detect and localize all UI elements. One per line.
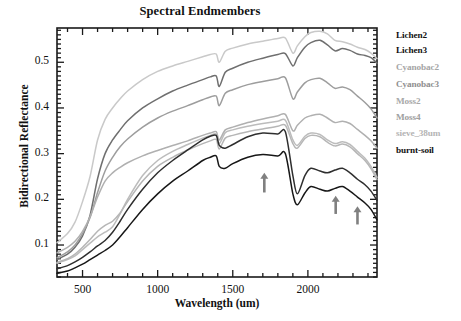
arrow-2180nm xyxy=(332,196,340,214)
arrow-head xyxy=(260,173,268,179)
legend-item-lichen2: Lichen2 xyxy=(396,30,427,40)
legend-item-lichen3: Lichen3 xyxy=(396,45,427,55)
legend-item-cyanobac3: Cyanobac3 xyxy=(396,79,439,89)
series-line-cyanobac2 xyxy=(57,77,377,258)
legend-item-burnt-soil: burnt-soil xyxy=(396,145,434,155)
arrow-2320nm xyxy=(353,206,361,224)
series-line-lichen3 xyxy=(57,40,377,259)
arrow-head xyxy=(353,206,361,212)
legend-item-moss4: Moss4 xyxy=(396,112,421,122)
legend-item-cyanobac2: Cyanobac2 xyxy=(396,62,439,72)
series-line-sieve-38um xyxy=(57,129,377,268)
plot-area xyxy=(0,0,461,321)
legend-item-sieve-38um: sieve_38um xyxy=(396,128,440,138)
series-line-moss4 xyxy=(57,124,377,262)
legend-item-moss2: Moss2 xyxy=(396,96,421,106)
arrow-1700nm xyxy=(260,173,268,193)
arrow-head xyxy=(332,196,340,202)
spectral-endmembers-figure: Spectral Endmembers Bidirectional Reflec… xyxy=(0,0,461,321)
